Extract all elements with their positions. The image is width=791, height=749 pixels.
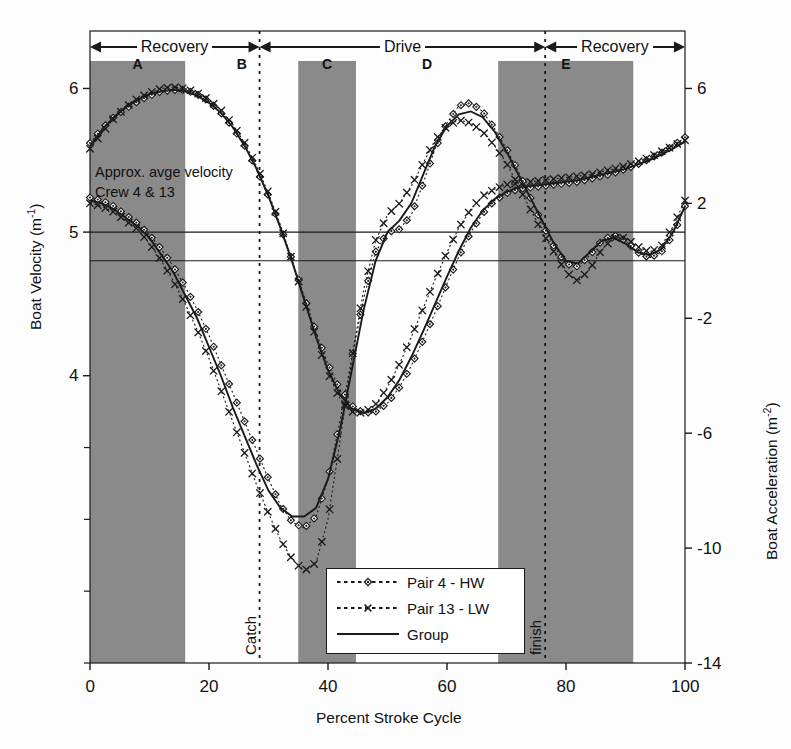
y-right-tick-2: 2 — [697, 195, 706, 212]
legend-label-group: Group — [407, 626, 449, 643]
band-letter-b: B — [237, 57, 247, 71]
legend-label-pair-4-hw: Pair 4 - HW — [407, 574, 485, 591]
legend-swatch-group — [336, 627, 400, 641]
legend-swatch-pair-13-lw — [336, 601, 400, 615]
x-tick-80: 80 — [557, 678, 576, 695]
y-axis-left-title: Boat Velocity (m-1) — [26, 203, 44, 330]
band-a — [90, 61, 185, 663]
y-axis-right-title: Boat Acceleration (m-2) — [762, 402, 780, 560]
marker-label-finish: finish — [528, 620, 543, 655]
x-tick-100: 100 — [671, 678, 699, 695]
y-left-tick-5: 5 — [69, 224, 78, 241]
avg-velocity-note-line2: Crew 4 & 13 — [95, 185, 175, 200]
y-left-tick-6: 6 — [69, 80, 78, 97]
legend-item-0[interactable]: Pair 4 - HW — [327, 569, 524, 595]
x-tick-60: 60 — [438, 678, 457, 695]
y-right-tick-6: 6 — [697, 80, 706, 97]
x-tick-40: 40 — [319, 678, 338, 695]
x-axis-title: Percent Stroke Cycle — [316, 710, 462, 726]
legend-label-pair-13-lw: Pair 13 - LW — [407, 600, 489, 617]
legend-item-1[interactable]: Pair 13 - LW — [327, 595, 524, 621]
phase-label-recovery-0: Recovery — [137, 39, 213, 55]
band-letter-a: A — [133, 57, 143, 71]
avg-velocity-note-line1: Approx. avge velocity — [95, 165, 233, 180]
band-letter-e: E — [561, 57, 570, 71]
y-right-tick-neg2: -2 — [697, 310, 712, 327]
x-tick-0: 0 — [86, 678, 95, 695]
band-letter-c: C — [322, 57, 332, 71]
legend-item-2[interactable]: Group — [327, 621, 524, 647]
y-right-tick-neg6: -6 — [697, 425, 712, 442]
band-letter-d: D — [422, 57, 432, 71]
marker-label-catch: Catch — [243, 616, 258, 655]
legend[interactable]: Pair 4 - HW Pair 13 - LW Group — [326, 568, 525, 654]
phase-label-drive-1: Drive — [380, 39, 425, 55]
y-left-tick-4: 4 — [69, 367, 78, 384]
y-right-tick-neg10: -10 — [697, 540, 722, 557]
figure-root: Boat Velocity (m-1) Boat Acceleration (m… — [0, 0, 791, 749]
y-right-tick-neg14: -14 — [697, 655, 722, 672]
phase-label-recovery-2: Recovery — [577, 39, 653, 55]
x-tick-20: 20 — [200, 678, 219, 695]
legend-swatch-pair-4-hw — [336, 575, 400, 589]
